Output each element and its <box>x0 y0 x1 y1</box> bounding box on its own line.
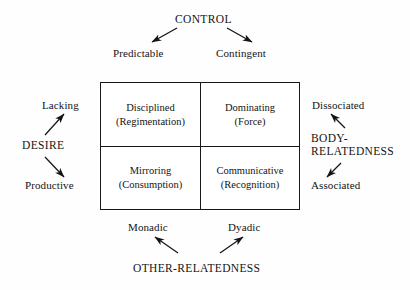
quadrant-bottom-right-title: Communicative <box>216 164 283 178</box>
quadrant-bottom-left-subtitle: (Consumption) <box>119 178 183 192</box>
axis-label-body-relatedness-line1: BODY- <box>311 132 348 144</box>
arrow-desire-to-productive <box>45 157 64 177</box>
axis-label-desire: DESIRE <box>22 139 64 152</box>
quadrant-bottom-right-subtitle: (Recognition) <box>221 178 279 192</box>
quadrant-top-right-subtitle: (Force) <box>235 115 266 129</box>
arrow-body-relatedness-to-associated <box>327 163 341 177</box>
arrow-other-relatedness-to-monadic <box>155 237 178 253</box>
pole-label-dyadic: Dyadic <box>228 221 260 233</box>
pole-label-contingent: Contingent <box>216 47 266 59</box>
pole-label-lacking: Lacking <box>42 99 79 111</box>
pole-label-productive: Productive <box>25 179 74 191</box>
axis-label-body-relatedness: BODY- RELATEDNESS <box>311 132 394 158</box>
quadrant-top-left-subtitle: (Regimentation) <box>116 115 185 129</box>
axis-label-control: CONTROL <box>175 13 232 26</box>
arrow-control-to-contingent <box>227 28 252 42</box>
arrow-control-to-predictable <box>152 28 177 42</box>
pole-label-predictable: Predictable <box>113 47 164 59</box>
quadrant-top-left: Disciplined (Regimentation) <box>101 83 200 146</box>
quadrant-bottom-right: Communicative (Recognition) <box>200 146 299 209</box>
pole-label-associated: Associated <box>311 179 360 191</box>
arrow-desire-to-lacking <box>45 114 64 135</box>
quadrant-bottom-left-title: Mirroring <box>130 164 171 178</box>
axis-label-body-relatedness-line2: RELATEDNESS <box>311 145 394 157</box>
pole-label-monadic: Monadic <box>128 221 168 233</box>
quadrant-top-right: Dominating (Force) <box>200 83 299 146</box>
quadrant-bottom-left: Mirroring (Consumption) <box>101 146 200 209</box>
diagram-canvas: CONTROL Predictable Contingent Lacking D… <box>0 0 410 290</box>
pole-label-dissociated: Dissociated <box>312 99 364 111</box>
arrow-body-relatedness-to-dissociated <box>331 114 345 128</box>
axis-label-other-relatedness: OTHER-RELATEDNESS <box>133 262 260 275</box>
arrow-other-relatedness-to-dyadic <box>220 237 243 253</box>
quadrant-top-right-title: Dominating <box>225 101 275 115</box>
quadrant-matrix: Disciplined (Regimentation) Dominating (… <box>100 82 300 210</box>
quadrant-top-left-title: Disciplined <box>126 101 174 115</box>
